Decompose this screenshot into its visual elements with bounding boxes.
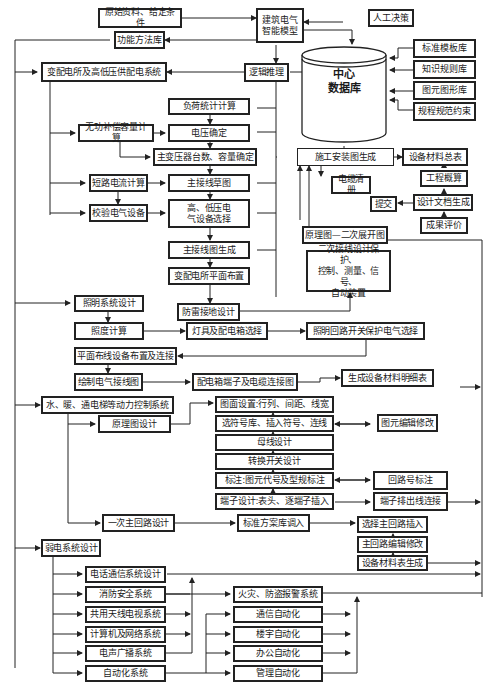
node-circuit-no[interactable]: 回路号标注: [373, 471, 448, 490]
node-cable-list[interactable]: 电缆清册: [331, 176, 371, 194]
node-automation[interactable]: 自动化系统: [85, 665, 166, 682]
node-broadcast[interactable]: 电声广播系统: [85, 645, 166, 662]
node-symbol-select[interactable]: 选符号库、插入符号、连线: [215, 415, 334, 432]
node-draw-wiring[interactable]: 绘制电气接线图: [74, 373, 143, 391]
node-mgmt-auto[interactable]: 管理自动化: [233, 665, 323, 682]
node-rules[interactable]: 规程规范约束: [413, 102, 476, 121]
node-fire[interactable]: 消防安全系统: [85, 586, 166, 603]
node-manual[interactable]: 人工决策: [368, 9, 414, 27]
node-substation[interactable]: 变配电所及高低压供配电系统: [41, 62, 167, 82]
node-office-auto[interactable]: 办公自动化: [233, 645, 323, 662]
node-verify[interactable]: 校验电气设备: [89, 204, 148, 222]
node-schematic-expand[interactable]: 原理图—二次展开图: [302, 226, 388, 244]
node-schematic-design[interactable]: 原理图设计: [98, 415, 171, 433]
node-catv[interactable]: 共用天线电视系统: [85, 606, 166, 623]
node-comm-auto[interactable]: 通信自动化: [233, 606, 323, 623]
node-model[interactable]: 建筑电气 智能模型: [256, 8, 304, 43]
node-lighting[interactable]: 照明系统设计: [74, 295, 144, 312]
node-terminal-design[interactable]: 端子设计:表头、逐端子插入: [215, 493, 334, 510]
node-estimate[interactable]: 工程概算: [420, 170, 468, 187]
node-voltage[interactable]: 电压确定: [168, 124, 250, 142]
node-illuminance[interactable]: 照度计算: [74, 322, 144, 340]
node-reasoning[interactable]: 逻辑推理: [244, 63, 289, 82]
node-annotate[interactable]: 标注:图元代号及型规标注: [215, 472, 334, 489]
node-source[interactable]: 原始资料、给定条件: [98, 8, 182, 28]
node-secondary[interactable]: 二次接线设计保护、 控制、测量、信号、 自动装置: [306, 250, 391, 292]
node-main-gen[interactable]: 主接线图生成: [168, 241, 250, 259]
node-symbol-lib[interactable]: 图元图形库: [413, 81, 476, 100]
node-busbar[interactable]: 母线设计: [215, 434, 334, 451]
node-main-draft[interactable]: 主接线草图: [168, 174, 250, 192]
node-lighting-switch[interactable]: 照明回路开关保护电气选择: [306, 322, 425, 340]
node-hv-lv-select[interactable]: 高、低压电 气设备选择: [168, 199, 250, 228]
node-weak-current[interactable]: 弱电系统设计: [41, 539, 101, 557]
node-transformer[interactable]: 主变压器台数、容量确定: [153, 148, 257, 166]
node-switch-design[interactable]: 转换开关设计: [215, 453, 334, 470]
node-computer[interactable]: 计算机及网络系统: [85, 626, 166, 643]
node-layout[interactable]: 变配电所平面布置: [168, 267, 250, 285]
node-box-terminal[interactable]: 配电箱端子及电缆连接图: [192, 373, 298, 391]
node-sheet-setup[interactable]: 图面设置:行列、间距、线宽: [215, 396, 334, 413]
node-construction[interactable]: 施工安装图生成: [297, 148, 394, 166]
node-evaluate[interactable]: 成果评价: [420, 217, 468, 234]
node-lamp-box[interactable]: 灯具及配电箱选择: [186, 322, 268, 340]
node-building-auto[interactable]: 楼宇自动化: [233, 626, 323, 643]
node-lightning[interactable]: 防雷接地设计: [177, 303, 240, 321]
node-plane-wiring[interactable]: 平面布线设备布置及连接: [74, 347, 177, 365]
node-select-main[interactable]: 选择主回路插入: [357, 516, 428, 533]
node-primary-circuit[interactable]: 一次主回路设计: [102, 514, 175, 532]
node-std-scheme[interactable]: 标准方案库调入: [237, 514, 310, 532]
node-main-edit[interactable]: 主回路编辑修改: [357, 536, 428, 553]
node-fire-alarm[interactable]: 火灾、防盗报警系统: [233, 586, 323, 603]
node-std-template[interactable]: 标准模板库: [413, 39, 476, 58]
node-symbol-edit[interactable]: 图元编辑修改: [377, 414, 438, 432]
flowchart-canvas: 中心 数据库 原始资料、给定条件 功能方法库 变配电所及高低压供配电系统 建筑电…: [0, 0, 499, 693]
node-doc-gen[interactable]: 设计文档生成: [413, 194, 473, 211]
node-short-circuit[interactable]: 短路电流计算: [89, 174, 148, 192]
node-hvac[interactable]: 水、暖、通电梯等动力控制系统: [41, 396, 174, 414]
node-terminal-out[interactable]: 端子排出线连接: [373, 492, 448, 511]
center-database[interactable]: 中心 数据库: [300, 68, 388, 96]
node-load-calc[interactable]: 负荷统计计算: [168, 98, 250, 115]
node-material-detail[interactable]: 生成设备材料明细表: [341, 369, 434, 387]
node-reactive[interactable]: 无功补偿容量计算: [78, 124, 154, 142]
node-material-total[interactable]: 设备材料总表: [402, 148, 468, 166]
node-submit[interactable]: 提交: [370, 196, 397, 212]
node-func-lib[interactable]: 功能方法库: [114, 31, 165, 49]
node-telephone[interactable]: 电话通信系统设计: [85, 566, 166, 583]
node-knowledge[interactable]: 知识规则库: [413, 60, 476, 79]
node-material-gen[interactable]: 设备材料表生成: [357, 555, 428, 571]
